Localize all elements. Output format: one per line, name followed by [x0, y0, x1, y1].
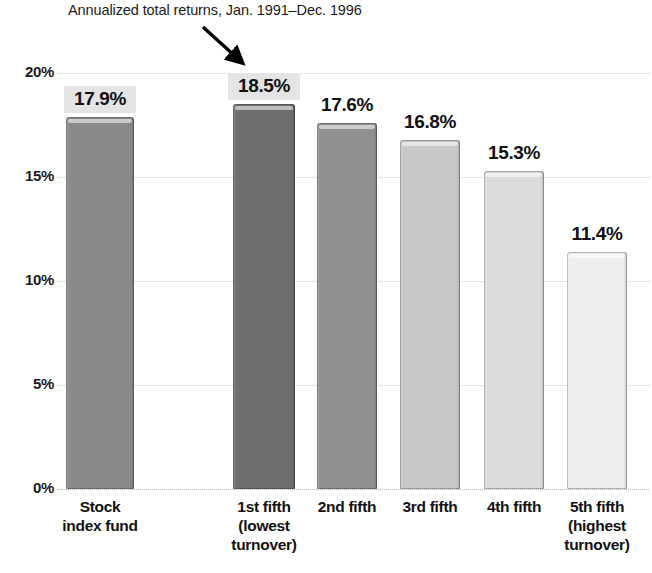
bar-value-label: 17.9%	[64, 86, 136, 113]
bar-value-label: 15.3%	[478, 140, 550, 167]
y-axis-tick-label: 15%	[0, 167, 54, 184]
bar[interactable]	[567, 252, 627, 489]
bar[interactable]	[400, 140, 460, 489]
bar[interactable]	[317, 123, 377, 489]
bar[interactable]	[233, 104, 295, 489]
y-axis-tick-label: 0%	[0, 479, 54, 496]
bar-value-label: 11.4%	[561, 221, 633, 248]
x-axis-category-label: Stock index fund	[45, 497, 155, 535]
y-axis-tick-label: 5%	[0, 375, 54, 392]
plot-area: 20%15%10%5%0%17.9%Stock index fund18.5%1…	[0, 0, 652, 573]
bar[interactable]	[484, 171, 544, 489]
y-axis-tick-label: 10%	[0, 271, 54, 288]
chart-container: Annualized total returns, Jan. 1991–Dec.…	[0, 0, 652, 573]
bar-value-label: 18.5%	[228, 73, 300, 100]
gridline-20%	[57, 73, 649, 75]
y-axis-tick-label: 20%	[0, 63, 54, 80]
gridline-0%	[57, 489, 649, 491]
x-axis-category-label: 5th fifth (highest turnover)	[542, 497, 652, 554]
bar[interactable]	[66, 117, 134, 489]
bar-value-label: 17.6%	[311, 92, 383, 119]
bar-value-label: 16.8%	[394, 109, 466, 136]
